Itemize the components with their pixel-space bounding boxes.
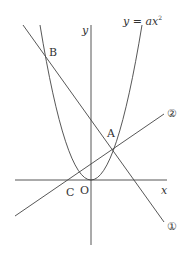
y-axis-label: y — [81, 24, 89, 37]
curve-label: y = ax2 — [122, 14, 162, 28]
origin-label: O — [80, 184, 89, 197]
line-2-label: ② — [167, 107, 177, 120]
line-1 — [23, 25, 164, 222]
x-axis-label: x — [161, 184, 168, 197]
point-b-label: B — [49, 46, 57, 59]
diagram-canvas: y = ax2 y x O B A C ① ② — [0, 0, 193, 253]
line-2 — [15, 114, 164, 216]
point-c-label: C — [66, 186, 74, 199]
line-1-label: ① — [167, 220, 177, 233]
point-a-label: A — [106, 127, 116, 140]
